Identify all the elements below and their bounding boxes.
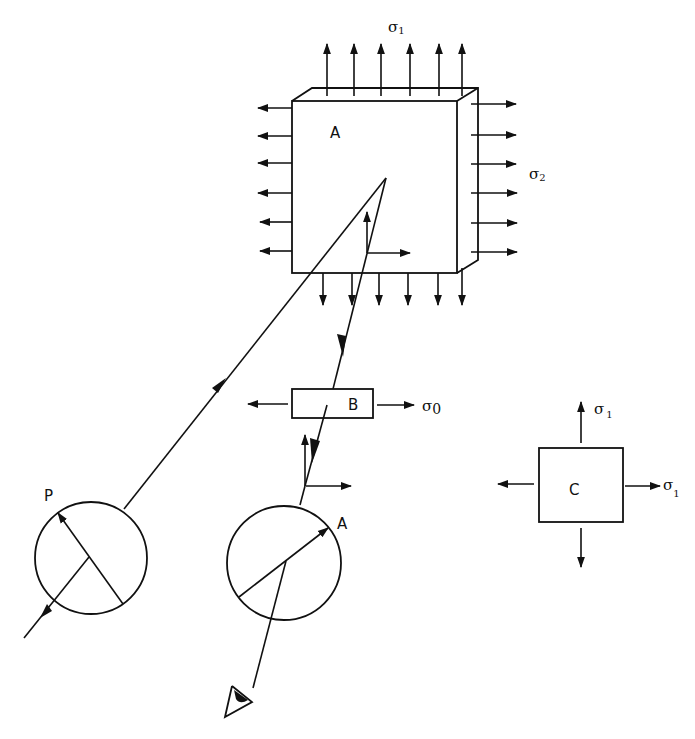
sigma1-label-c-right: σ1 bbox=[663, 476, 680, 499]
sigma2-arrows-left bbox=[258, 108, 292, 251]
analyzer-label: A bbox=[337, 515, 348, 533]
plate-c-label: C bbox=[569, 481, 579, 499]
analyzer: A bbox=[227, 506, 348, 688]
sigma1-label-top: σ1 bbox=[388, 18, 405, 36]
sigma1-label-c-top: σ1 bbox=[594, 400, 613, 420]
sigma0-label: σ0 bbox=[422, 397, 441, 417]
eye-icon bbox=[225, 686, 252, 717]
plate-a-axes bbox=[367, 212, 410, 253]
plate-a-label: A bbox=[330, 124, 341, 142]
polarizer-label: P bbox=[44, 487, 53, 505]
light-ray bbox=[24, 178, 386, 638]
plate-c: C bbox=[498, 402, 660, 567]
compensator-b: B bbox=[248, 389, 414, 418]
compensator-b-label: B bbox=[348, 396, 358, 414]
polarizer: P bbox=[35, 487, 147, 614]
photoelasticity-diagram: A σ1 σ2 bbox=[0, 0, 695, 739]
sigma2-label: σ2 bbox=[529, 165, 546, 183]
